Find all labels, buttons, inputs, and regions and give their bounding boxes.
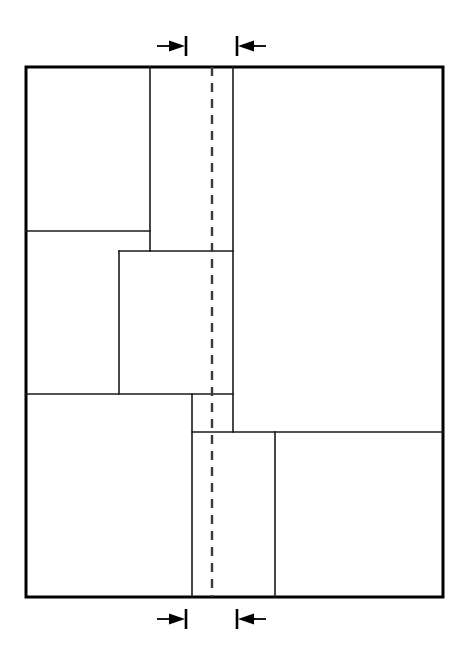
bottom-right-dimension-arrow <box>237 609 266 629</box>
partition-diagram-svg <box>0 0 462 660</box>
diagram-root <box>0 0 462 660</box>
dimension-arrowhead <box>169 41 185 52</box>
top-right-dimension-arrow <box>237 36 266 56</box>
outer-rectangle <box>26 67 443 597</box>
bottom-dimension-markers <box>157 609 266 629</box>
top-left-dimension-arrow <box>157 36 186 56</box>
top-dimension-markers <box>157 36 266 56</box>
dimension-arrowhead <box>238 614 254 625</box>
bottom-left-dimension-arrow <box>157 609 186 629</box>
dimension-arrowhead <box>238 41 254 52</box>
dimension-arrowhead <box>169 614 185 625</box>
